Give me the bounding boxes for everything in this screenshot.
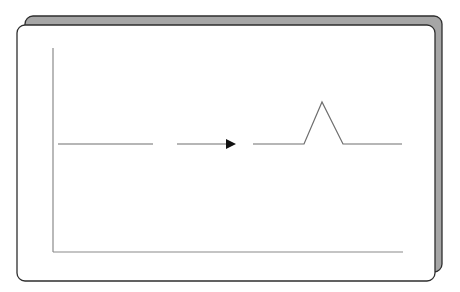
front-panel [17,25,435,281]
diagram-canvas [0,0,460,292]
diagram-svg [0,0,460,292]
